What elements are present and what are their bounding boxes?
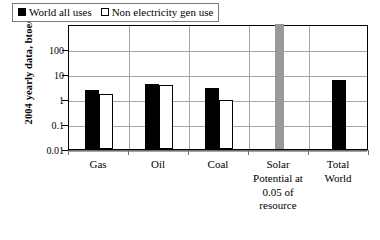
chart-legend: World all uses Non electricity gen use <box>12 3 219 22</box>
y-axis-tick-label: 10 <box>24 70 64 81</box>
x-axis-label-line: Solar <box>253 158 303 172</box>
x-axis-tick-mark <box>248 150 249 155</box>
x-axis-line <box>68 150 368 151</box>
x-axis-label-line: Total <box>324 158 351 172</box>
bar <box>219 100 233 149</box>
x-axis-tick-mark <box>188 150 189 155</box>
category-separator <box>309 26 310 149</box>
gridline <box>69 151 367 152</box>
legend-label-world-all-uses: World all uses <box>29 6 92 18</box>
category-separator <box>189 26 190 149</box>
legend-item-world-all-uses: World all uses <box>18 6 92 18</box>
x-axis-label-line: Oil <box>151 158 165 172</box>
y-axis-tick-label: 0.01 <box>24 145 64 156</box>
legend-item-non-electricity-gen-use: Non electricity gen use <box>101 6 214 18</box>
x-axis-label-line: Coal <box>208 158 229 172</box>
gridline <box>69 76 367 77</box>
plot-area <box>68 25 368 150</box>
legend-swatch-filled-icon <box>18 8 26 16</box>
bar <box>145 84 159 149</box>
legend-label-non-electricity-gen-use: Non electricity gen use <box>112 6 214 18</box>
x-axis-tick-mark <box>368 150 369 155</box>
bar <box>205 88 219 149</box>
x-axis-label-line: Gas <box>89 158 106 172</box>
bar <box>85 90 99 149</box>
y-axis-tick-label: 1 <box>24 95 64 106</box>
x-axis-label: Coal <box>208 158 229 172</box>
x-axis-tick-mark <box>308 150 309 155</box>
x-axis-label: SolarPotential at0.05 ofresource <box>253 158 303 213</box>
bar <box>159 85 173 149</box>
x-axis-label: Oil <box>151 158 165 172</box>
x-axis-label-line: World <box>324 172 351 186</box>
bar <box>99 94 113 149</box>
x-axis-label: Gas <box>89 158 106 172</box>
legend-swatch-hollow-icon <box>101 8 109 16</box>
y-axis-tick-label: 0.1 <box>24 120 64 131</box>
x-axis-label-line: Potential at <box>253 172 303 186</box>
bar <box>332 80 346 149</box>
x-axis-tick-mark <box>128 150 129 155</box>
gridline <box>69 51 367 52</box>
bar <box>275 24 284 149</box>
x-axis-tick-mark <box>68 150 69 155</box>
category-separator <box>249 26 250 149</box>
x-axis-label-line: 0.05 of <box>253 186 303 200</box>
y-axis-tick-label: 100 <box>24 45 64 56</box>
chart-figure: ·· ·· ·· ··· ··· ···· ·· ···· ···· ··· ·… <box>0 0 380 240</box>
x-axis-label-line: resource <box>253 199 303 213</box>
category-separator <box>129 26 130 149</box>
x-axis-label: TotalWorld <box>324 158 351 186</box>
